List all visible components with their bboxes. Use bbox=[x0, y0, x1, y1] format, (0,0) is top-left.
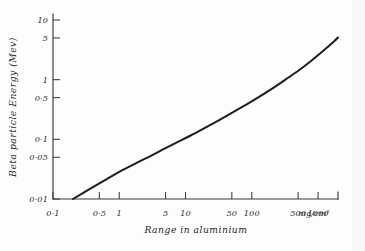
paper-right-margin bbox=[352, 0, 365, 251]
x-tick-label: 100 bbox=[244, 208, 260, 218]
x-tick-label: 0·5 bbox=[93, 208, 106, 218]
y-tick-label: 0·1 bbox=[35, 134, 48, 144]
x-tick-label: 5 bbox=[163, 208, 168, 218]
x-axis-unit-label: mg/cm² bbox=[298, 208, 329, 218]
beta-particle-range-chart: 0·010·050·10·51510 0·10·5151050100500100… bbox=[0, 0, 365, 251]
x-tick-label: 1 bbox=[117, 208, 122, 218]
x-tick-label: 50 bbox=[227, 208, 238, 218]
x-tick-label: 10 bbox=[180, 208, 191, 218]
y-tick-label: 0·01 bbox=[29, 194, 48, 204]
y-tick-label: 0·5 bbox=[35, 93, 48, 103]
y-tick-label: 0·05 bbox=[29, 152, 48, 162]
y-axis-title: Beta particle Energy (Mev) bbox=[7, 37, 18, 178]
y-tick-label: 10 bbox=[37, 15, 48, 25]
x-tick-label: 0·1 bbox=[46, 208, 59, 218]
y-tick-label: 5 bbox=[43, 33, 48, 43]
y-tick-label: 1 bbox=[43, 75, 48, 85]
x-axis-title: Range in aluminium bbox=[143, 224, 247, 235]
